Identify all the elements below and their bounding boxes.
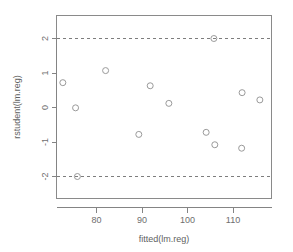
y-tick-label-1: 1 (40, 70, 50, 75)
x-tick-label-110: 110 (226, 215, 240, 225)
y-tick-label-neg2: -2 (40, 172, 50, 180)
y-axis-title: rstudent(lm.reg) (12, 75, 22, 139)
data-point (73, 105, 79, 111)
data-point (136, 131, 142, 137)
data-points-layer (60, 36, 263, 180)
x-tick-label-100: 100 (180, 215, 195, 225)
y-axis: 2 1 0 -1 -2 (40, 36, 56, 181)
y-tick-label-0: 0 (40, 105, 50, 110)
x-axis-title: fitted(lm.reg) (139, 234, 190, 244)
x-tick-label-80: 80 (91, 215, 101, 225)
data-point (103, 68, 109, 74)
data-point (203, 129, 209, 135)
data-point (239, 145, 245, 151)
data-point (257, 97, 263, 103)
scatter-plot-figure: 2 1 0 -1 -2 80 90 100 110 fitted(lm.reg)… (0, 0, 293, 252)
data-point (60, 80, 66, 86)
y-tick-label-2: 2 (40, 36, 50, 41)
plot-frame (57, 16, 272, 199)
reference-lines (57, 39, 271, 177)
data-point (147, 83, 153, 89)
data-point (239, 90, 245, 96)
data-point (212, 142, 218, 148)
x-tick-label-90: 90 (137, 215, 147, 225)
x-axis: 80 90 100 110 (57, 208, 272, 226)
y-tick-label-neg1: -1 (40, 138, 50, 146)
data-point (166, 100, 172, 106)
plot-canvas: 2 1 0 -1 -2 80 90 100 110 fitted(lm.reg)… (0, 0, 293, 252)
